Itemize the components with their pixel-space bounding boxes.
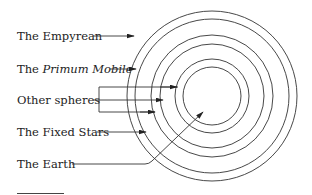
cosmos-diagram: The Empyrean The Primum Mobile Other sph… bbox=[0, 0, 312, 195]
ring-sphere-1 bbox=[183, 67, 241, 125]
label-fixed-stars: The Fixed Stars bbox=[17, 125, 109, 139]
ring-sphere-3 bbox=[160, 44, 264, 148]
concentric-spheres bbox=[127, 11, 297, 181]
ring-empyrean bbox=[127, 11, 297, 181]
ring-primum-mobile bbox=[135, 19, 289, 173]
label-other-spheres: Other spheres bbox=[17, 93, 100, 107]
ring-sphere-2 bbox=[175, 59, 249, 133]
bracket-other-spheres bbox=[99, 87, 178, 112]
ring-fixed-stars bbox=[151, 35, 273, 157]
label-empyrean: The Empyrean bbox=[17, 29, 103, 43]
label-earth: The Earth bbox=[17, 157, 76, 171]
